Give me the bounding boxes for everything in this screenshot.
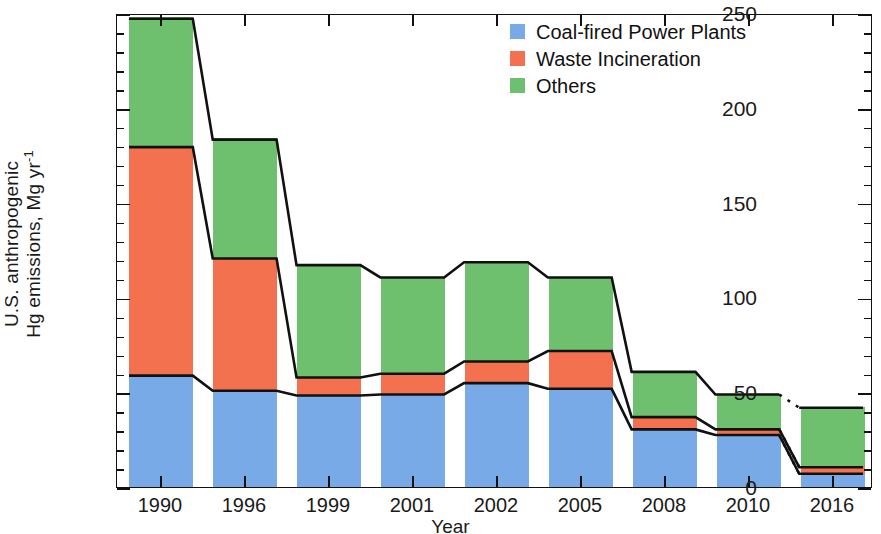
bar-segment (465, 383, 529, 487)
x-tick (412, 15, 414, 26)
y-axis-title: U.S. anthropogenic Hg emissions, Mg yr-1 (0, 0, 46, 488)
y-tick-minor (117, 223, 124, 224)
chart-figure: U.S. anthropogenic Hg emissions, Mg yr-1… (0, 0, 881, 534)
bar-segment (297, 395, 361, 487)
y-tick-minor (864, 431, 871, 432)
y-tick-minor (864, 280, 871, 281)
bar-segment (801, 467, 865, 474)
x-tick-label: 2005 (558, 494, 603, 517)
y-tick-minor (117, 337, 124, 338)
bar-segment (213, 390, 277, 487)
legend: Coal-fired Power PlantsWaste Incineratio… (510, 18, 746, 99)
bar-segment (465, 361, 529, 383)
legend-label: Coal-fired Power Plants (536, 22, 746, 42)
x-tick-label: 1999 (306, 494, 351, 517)
y-tick-minor (864, 128, 871, 129)
y-tick-major (117, 299, 130, 301)
y-tick-minor (864, 337, 871, 338)
outline-dashed (779, 435, 799, 474)
y-tick-major (858, 299, 871, 301)
x-tick (328, 476, 330, 487)
y-tick-minor (864, 33, 871, 34)
y-tick-minor (864, 71, 871, 72)
y-tick-minor (117, 412, 124, 413)
y-tick-major (858, 393, 871, 395)
y-tick-minor (117, 33, 124, 34)
legend-swatch-icon (510, 51, 525, 66)
y-tick-label: 50 (734, 381, 757, 405)
bar-segment (633, 371, 697, 417)
y-tick-major (858, 109, 871, 111)
legend-swatch-icon (510, 24, 525, 39)
y-tick-major (117, 393, 130, 395)
y-tick-major (117, 488, 130, 490)
y-tick-minor (117, 185, 124, 186)
x-tick (496, 476, 498, 487)
x-axis-title-text: Year (431, 516, 469, 534)
plot-inner (117, 15, 871, 487)
x-tick (832, 476, 834, 487)
y-tick-major (858, 14, 871, 16)
y-tick-minor (864, 185, 871, 186)
bar-segment (633, 417, 697, 429)
x-tick (496, 15, 498, 26)
legend-swatch-icon (510, 78, 525, 93)
bar-segment (549, 351, 613, 389)
y-tick-minor (117, 469, 124, 470)
bar-stack (213, 15, 277, 487)
x-tick-label: 2010 (726, 494, 771, 517)
legend-label: Others (536, 76, 596, 96)
x-tick (160, 476, 162, 487)
x-tick (580, 476, 582, 487)
bar-segment (213, 138, 277, 257)
y-axis-title-line1: U.S. anthropogenic (1, 161, 22, 327)
x-tick-label: 2016 (810, 494, 855, 517)
bar-segment (549, 277, 613, 351)
y-tick-minor (864, 412, 871, 413)
y-tick-label: 150 (722, 192, 757, 216)
bar-stack (801, 15, 865, 487)
x-tick (244, 15, 246, 26)
x-tick (328, 15, 330, 26)
plot-area (116, 14, 872, 488)
x-tick (412, 476, 414, 487)
y-tick-minor (117, 166, 124, 167)
bar-stack (297, 15, 361, 487)
x-tick (160, 15, 162, 26)
legend-label: Waste Incineration (536, 49, 701, 69)
y-tick-minor (864, 469, 871, 470)
outline-dashed (779, 429, 799, 467)
legend-item: Others (510, 72, 746, 99)
bar-segment (381, 373, 445, 394)
bar-segment (129, 375, 193, 487)
y-tick-label: 100 (722, 286, 757, 310)
x-axis-title: Year (0, 516, 881, 534)
y-tick-minor (864, 90, 871, 91)
bar-segment (381, 394, 445, 487)
y-tick-major (858, 204, 871, 206)
x-tick-label: 1996 (222, 494, 267, 517)
bar-segment (465, 261, 529, 361)
y-tick-minor (117, 431, 124, 432)
x-tick-label: 2002 (474, 494, 519, 517)
y-tick-minor (117, 356, 124, 357)
bar-segment (297, 377, 361, 395)
x-tick-label: 2008 (642, 494, 687, 517)
y-tick-minor (117, 375, 124, 376)
y-tick-minor (864, 375, 871, 376)
y-tick-minor (117, 280, 124, 281)
y-tick-minor (864, 242, 871, 243)
y-tick-minor (117, 52, 124, 53)
x-tick (664, 476, 666, 487)
y-axis-title-line2: Hg emissions, Mg yr (24, 162, 45, 338)
bar-segment (801, 407, 865, 467)
y-tick-minor (864, 261, 871, 262)
y-tick-minor (117, 318, 124, 319)
y-tick-minor (864, 52, 871, 53)
x-tick-label: 2001 (390, 494, 435, 517)
y-tick-minor (117, 242, 124, 243)
y-tick-minor (864, 166, 871, 167)
y-tick-minor (117, 261, 124, 262)
legend-item: Waste Incineration (510, 45, 746, 72)
bar-segment (549, 388, 613, 487)
